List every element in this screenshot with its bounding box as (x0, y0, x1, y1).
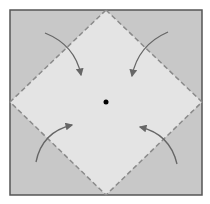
origami-diagram (0, 0, 210, 204)
center-dot (104, 100, 109, 105)
